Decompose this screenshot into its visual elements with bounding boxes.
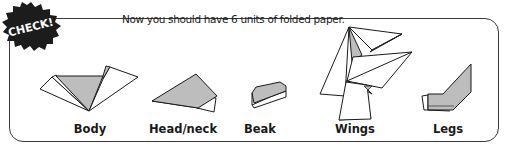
unit-label-legs: Legs — [433, 122, 463, 136]
legs-fold-icon — [0, 0, 507, 150]
